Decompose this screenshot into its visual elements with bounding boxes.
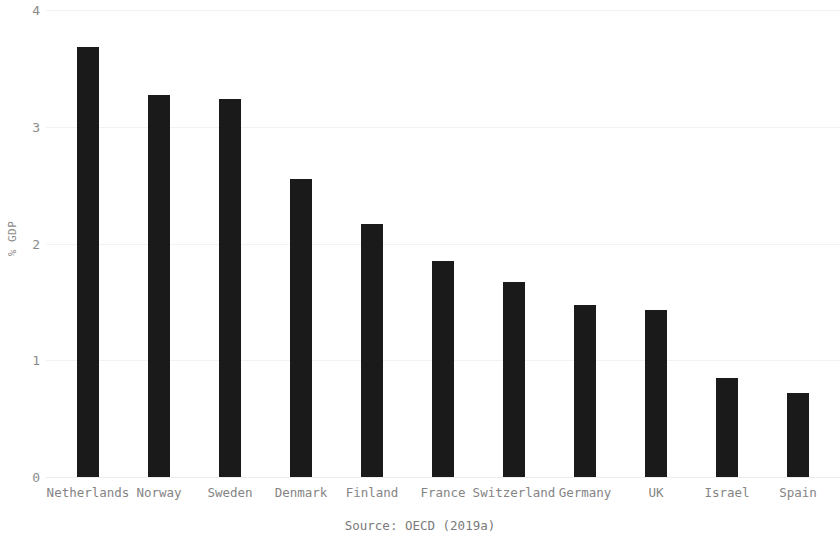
y-tick-label: 3 — [6, 119, 40, 134]
x-tick-label: Germany — [559, 485, 612, 500]
x-tick-label: Norway — [136, 485, 181, 500]
bar — [503, 282, 525, 477]
y-tick-label: 2 — [6, 236, 40, 251]
x-tick-label: Switzerland — [473, 485, 556, 500]
x-tick-label: Netherlands — [47, 485, 130, 500]
bar — [361, 224, 383, 477]
bar — [787, 393, 809, 477]
x-tick-label: Finland — [346, 485, 399, 500]
source-caption: Source: OECD (2019a) — [0, 518, 840, 533]
gridline — [46, 10, 840, 11]
y-axis-ticks: 01234 — [0, 10, 40, 477]
plot-area — [46, 10, 840, 477]
bar — [574, 305, 596, 477]
x-tick-label: France — [420, 485, 465, 500]
x-tick-label: Denmark — [275, 485, 328, 500]
x-tick-label: Sweden — [207, 485, 252, 500]
x-tick-label: Spain — [779, 485, 817, 500]
bar — [716, 378, 738, 477]
bar — [219, 99, 241, 477]
bar — [77, 47, 99, 477]
x-tick-label: UK — [648, 485, 663, 500]
gridline — [46, 477, 840, 478]
bar-chart: % GDP 01234 Source: OECD (2019a) Netherl… — [0, 0, 840, 545]
y-tick-label: 0 — [6, 470, 40, 485]
y-tick-label: 1 — [6, 353, 40, 368]
y-tick-label: 4 — [6, 3, 40, 18]
x-tick-label: Israel — [704, 485, 749, 500]
bar — [645, 310, 667, 477]
bar — [432, 261, 454, 477]
bar — [148, 95, 170, 477]
bar — [290, 179, 312, 477]
